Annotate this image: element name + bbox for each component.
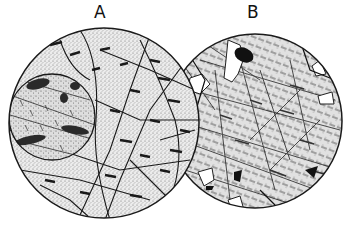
micrograph-illustration [0, 0, 350, 226]
figure: A B [0, 0, 350, 226]
